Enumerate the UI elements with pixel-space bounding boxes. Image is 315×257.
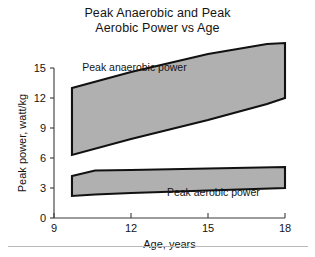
y-tick-label: 0 bbox=[40, 212, 46, 224]
x-tick-label: 15 bbox=[202, 222, 214, 234]
chart-figure: Peak Anaerobic and Peak Aerobic Power vs… bbox=[0, 0, 315, 257]
footer-divider bbox=[8, 246, 308, 247]
y-axis-label: Peak power, watt/kg bbox=[16, 94, 28, 192]
band-anaerobic bbox=[72, 43, 285, 155]
x-tick-label: 12 bbox=[125, 222, 137, 234]
x-axis-label: Age, years bbox=[143, 238, 196, 250]
plot-area: 036912159121518Age, yearsPeak power, wat… bbox=[0, 0, 315, 257]
annotation-anaerobic: Peak anaerobic power bbox=[82, 61, 187, 73]
x-tick-label: 9 bbox=[51, 222, 57, 234]
y-tick-label: 9 bbox=[40, 122, 46, 134]
y-tick-label: 12 bbox=[34, 92, 46, 104]
y-tick-label: 6 bbox=[40, 152, 46, 164]
x-tick-label: 18 bbox=[279, 222, 291, 234]
annotation-aerobic: Peak aerobic power bbox=[167, 186, 260, 198]
y-tick-label: 15 bbox=[34, 62, 46, 74]
y-tick-label: 3 bbox=[40, 182, 46, 194]
